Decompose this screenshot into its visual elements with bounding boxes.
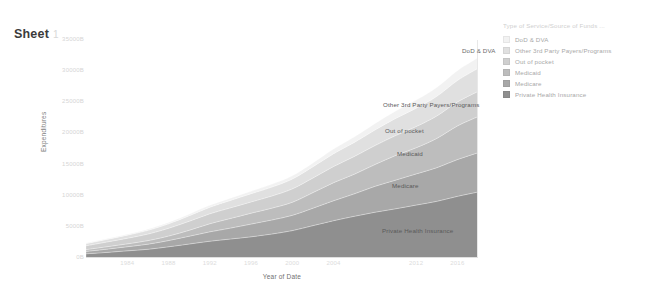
y-axis-ticks: 0B5000B10000B15000B20000B25000B30000B350… [26, 40, 84, 258]
y-tick-label: 30000B [38, 67, 84, 73]
y-tick-label: 5000B [38, 223, 84, 229]
x-axis-ticks: 19841988199219962000200420122016 [86, 260, 478, 272]
legend-item[interactable]: Out of pocket [503, 56, 643, 66]
x-tick-label: 2000 [285, 260, 299, 266]
x-tick-label: 1992 [203, 260, 217, 266]
stacked-area-svg [86, 40, 478, 258]
legend-item[interactable]: Other 3rd Party Payers/Programs [503, 45, 643, 55]
legend-item[interactable]: DoD & DVA [503, 34, 643, 44]
legend-color-swatch [503, 91, 510, 98]
x-tick-label: 1988 [161, 260, 175, 266]
x-tick-label: 1996 [244, 260, 258, 266]
legend-item[interactable]: Medicaid [503, 67, 643, 77]
x-tick-label: 2012 [409, 260, 423, 266]
legend-title: Type of Service/Source of Funds ... [503, 22, 643, 29]
x-tick-label: 1984 [120, 260, 134, 266]
legend-items: DoD & DVAOther 3rd Party Payers/Programs… [503, 34, 643, 99]
legend-item[interactable]: Private Health Insurance [503, 89, 643, 99]
legend-color-swatch [503, 58, 510, 65]
legend-item-label: Out of pocket [515, 58, 554, 65]
legend-item-label: Other 3rd Party Payers/Programs [515, 47, 611, 54]
y-tick-label: 15000B [38, 161, 84, 167]
legend-item-label: Medicare [515, 80, 542, 87]
x-tick-label: 2016 [450, 260, 464, 266]
x-axis-title: Year of Date [86, 273, 478, 280]
legend-color-swatch [503, 47, 510, 54]
legend-color-swatch [503, 36, 510, 43]
area-chart: Expenditures 0B5000B10000B15000B20000B25… [18, 34, 488, 264]
y-tick-label: 35000B [38, 36, 84, 42]
legend-item-label: Medicaid [515, 69, 541, 76]
legend-item-label: DoD & DVA [515, 36, 549, 43]
legend: Type of Service/Source of Funds ... DoD … [503, 22, 643, 100]
y-tick-label: 25000B [38, 98, 84, 104]
legend-item-label: Private Health Insurance [515, 91, 586, 98]
tableau-worksheet: Sheet 1 Expenditures 0B5000B10000B15000B… [0, 0, 651, 297]
legend-color-swatch [503, 69, 510, 76]
y-tick-label: 20000B [38, 129, 84, 135]
x-tick-label: 2004 [327, 260, 341, 266]
legend-item[interactable]: Medicare [503, 78, 643, 88]
legend-color-swatch [503, 80, 510, 87]
y-tick-label: 10000B [38, 192, 84, 198]
plot-area[interactable] [86, 40, 478, 258]
y-tick-label: 0B [38, 254, 84, 260]
